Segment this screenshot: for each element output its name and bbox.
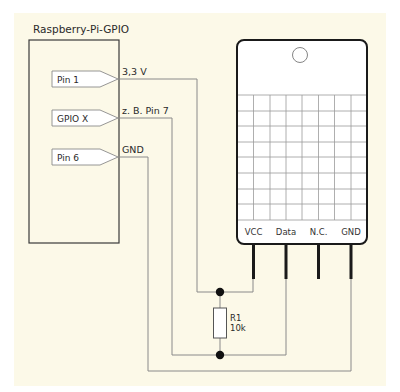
- pi-gpio-title: Raspberry-Pi-GPIO: [33, 23, 129, 35]
- junction-dot-data: [216, 351, 224, 359]
- pin-label: Pin 6: [57, 153, 79, 163]
- signal-label: 3,3 V: [122, 66, 147, 77]
- sensor-label-vcc: VCC: [245, 227, 263, 237]
- pin-label: Pin 1: [57, 75, 79, 85]
- resistor-body: [214, 308, 227, 338]
- resistor-name: R1: [230, 313, 241, 323]
- pin-label: GPIO X: [57, 114, 88, 124]
- junction-dot-vcc: [216, 288, 224, 296]
- sensor-label-nc: N.C.: [310, 227, 328, 237]
- sensor-label-data: Data: [276, 227, 296, 237]
- mounting-hole-icon: [293, 48, 308, 63]
- sensor-module: VCC Data N.C. GND: [237, 40, 367, 279]
- wiring-diagram: Raspberry-Pi-GPIO Pin 1 3,3 V GPIO X z. …: [0, 0, 400, 392]
- sensor-label-gnd: GND: [341, 227, 361, 237]
- resistor-value: 10k: [230, 323, 246, 333]
- signal-label: z. B. Pin 7: [122, 105, 169, 116]
- signal-label: GND: [122, 144, 144, 155]
